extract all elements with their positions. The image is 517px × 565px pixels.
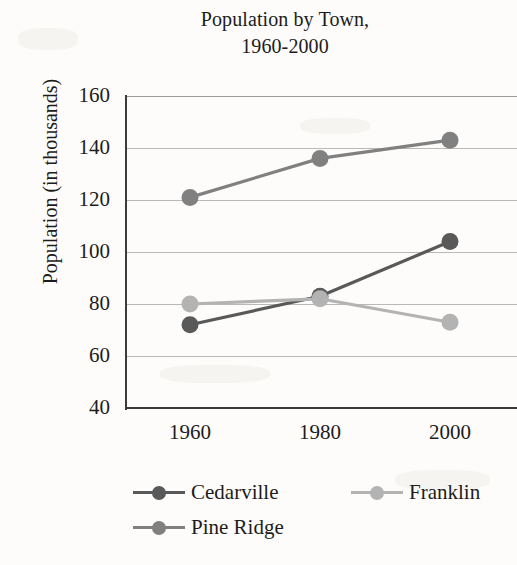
legend-label-franklin: Franklin [409,480,480,504]
legend-marker-pine-ridge [133,519,185,535]
chart-legend: Cedarville Franklin Pine Ridge [133,474,517,544]
legend-row-2: Pine Ridge [133,509,517,544]
data-point-cedarville-2000 [442,233,459,250]
data-point-cedarville-1960 [182,316,199,333]
legend-item-pine-ridge[interactable]: Pine Ridge [133,509,284,544]
legend-item-cedarville[interactable]: Cedarville [133,474,278,509]
legend-marker-franklin [351,484,403,500]
legend-label-cedarville: Cedarville [191,480,278,504]
legend-row-1: Cedarville Franklin [133,474,517,509]
series-line-cedarville [190,242,450,325]
data-point-franklin-1960 [182,296,199,313]
legend-item-franklin[interactable]: Franklin [351,474,480,509]
series-line-pine-ridge [190,140,450,197]
data-point-pine-ridge-2000 [442,132,459,149]
legend-label-pine-ridge: Pine Ridge [191,515,284,539]
data-point-pine-ridge-1960 [182,189,199,206]
line-chart: Population by Town, 1960-2000 Population… [0,0,517,565]
legend-marker-cedarville [133,484,185,500]
data-point-franklin-1980 [312,290,329,307]
data-point-pine-ridge-1980 [312,150,329,167]
data-point-franklin-2000 [442,314,459,331]
